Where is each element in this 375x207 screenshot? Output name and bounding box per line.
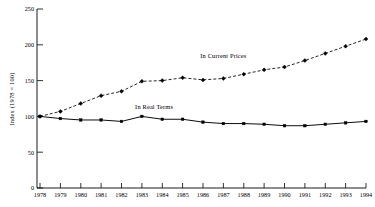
data-point bbox=[99, 94, 103, 98]
x-tick-label-1985: 1985 bbox=[176, 191, 188, 198]
data-point bbox=[323, 51, 327, 55]
data-point bbox=[79, 102, 83, 106]
data-point bbox=[59, 117, 62, 120]
series-label-in-current-prices: In Current Prices bbox=[200, 52, 247, 59]
series-label-in-real-terms: In Real Terms bbox=[135, 103, 173, 110]
data-point bbox=[79, 119, 82, 122]
x-tick-label-1992: 1992 bbox=[319, 191, 331, 198]
data-point bbox=[141, 115, 144, 118]
data-point bbox=[221, 76, 225, 80]
data-point bbox=[201, 78, 205, 82]
data-point bbox=[283, 124, 286, 127]
data-point bbox=[344, 122, 347, 125]
y-tick-label-250: 250 bbox=[25, 5, 34, 12]
y-tick-group bbox=[37, 9, 43, 188]
data-point bbox=[263, 123, 266, 126]
data-point bbox=[304, 124, 307, 127]
data-point bbox=[181, 76, 185, 80]
y-tick-label-100: 100 bbox=[25, 113, 34, 120]
data-point bbox=[262, 68, 266, 72]
data-point bbox=[161, 118, 164, 121]
data-point bbox=[140, 79, 144, 83]
data-point bbox=[100, 119, 103, 122]
x-tick-label-1981: 1981 bbox=[95, 191, 107, 198]
x-tick-label-1993: 1993 bbox=[339, 191, 351, 198]
x-tick-label-1982: 1982 bbox=[115, 191, 127, 198]
x-tick-label-1991: 1991 bbox=[299, 191, 311, 198]
x-tick-label-1990: 1990 bbox=[278, 191, 290, 198]
x-tick-label-1988: 1988 bbox=[238, 191, 250, 198]
data-point bbox=[242, 122, 245, 125]
x-tick-label-1983: 1983 bbox=[136, 191, 148, 198]
line-chart: 250 200 150 100 50 0 Index (1978 = 100) bbox=[0, 0, 375, 207]
y-axis-title: Index (1978 = 100) bbox=[8, 72, 16, 125]
x-tick-label-1989: 1989 bbox=[258, 191, 270, 198]
data-point bbox=[181, 118, 184, 121]
data-point bbox=[242, 72, 246, 76]
chart-figure: 250 200 150 100 50 0 Index (1978 = 100) bbox=[0, 0, 375, 207]
data-point bbox=[202, 121, 205, 124]
x-tick-label-1994: 1994 bbox=[360, 191, 372, 198]
y-tick-label-150: 150 bbox=[25, 77, 34, 84]
x-tick-group bbox=[40, 183, 366, 188]
data-point bbox=[364, 37, 368, 41]
x-tick-label-1978: 1978 bbox=[34, 191, 46, 198]
x-tick-label-1980: 1980 bbox=[75, 191, 87, 198]
data-point bbox=[39, 115, 42, 118]
y-tick-label-50: 50 bbox=[28, 149, 34, 156]
x-tick-label-1984: 1984 bbox=[156, 191, 168, 198]
data-point bbox=[365, 120, 368, 123]
series-markers-in-current-prices bbox=[38, 37, 368, 118]
data-point bbox=[324, 123, 327, 126]
y-tick-label-200: 200 bbox=[25, 41, 34, 48]
data-point bbox=[283, 65, 287, 69]
x-tick-label-1986: 1986 bbox=[197, 191, 209, 198]
data-point bbox=[160, 79, 164, 83]
data-point bbox=[222, 122, 225, 125]
data-point bbox=[120, 120, 123, 123]
data-point bbox=[344, 44, 348, 48]
data-point bbox=[58, 109, 62, 113]
data-point bbox=[303, 59, 307, 63]
data-point bbox=[120, 89, 124, 93]
x-tick-label-1987: 1987 bbox=[217, 191, 229, 198]
x-tick-label-1979: 1979 bbox=[54, 191, 66, 198]
